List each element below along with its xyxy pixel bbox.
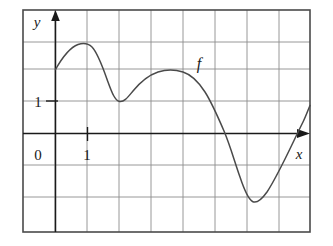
y-tick-label-one: 1 (34, 94, 42, 110)
x-axis-label: x (295, 146, 303, 162)
y-axis-label: y (32, 14, 41, 30)
graph-canvas: y x 0 1 1 f (0, 0, 333, 246)
figure-background (0, 0, 333, 246)
origin-label: 0 (34, 147, 42, 163)
x-tick-label-one: 1 (83, 147, 91, 163)
graph-figure: y x 0 1 1 f (0, 0, 333, 246)
